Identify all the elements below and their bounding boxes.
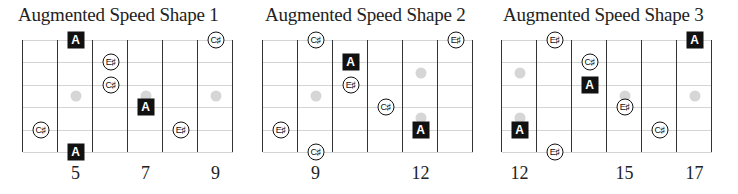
inlay-dot-icon <box>310 91 321 102</box>
fretboard: AC♯E♯C♯AC♯E♯A <box>23 40 233 152</box>
root-note-marker: A <box>342 54 359 71</box>
inlay-dot-icon <box>689 91 700 102</box>
inlay-dot-icon <box>70 91 81 102</box>
fret-number-label: 15 <box>616 163 634 184</box>
chord-tone-marker: C♯ <box>207 32 224 49</box>
root-note-marker: A <box>67 144 84 161</box>
chord-tone-marker: E♯ <box>102 54 119 71</box>
root-note-marker: A <box>581 76 598 93</box>
fret-number-label: 7 <box>141 163 150 184</box>
inlay-dot-icon <box>415 68 426 79</box>
fret-line <box>641 40 642 152</box>
chord-tone-marker: E♯ <box>272 121 289 138</box>
chord-tone-marker: E♯ <box>447 32 464 49</box>
chord-tone-marker: E♯ <box>546 144 563 161</box>
fret-line <box>22 40 23 152</box>
fret-number-label: 9 <box>311 163 320 184</box>
chord-tone-marker: E♯ <box>616 99 633 116</box>
diagram-title: Augmented Speed Shape 1 <box>18 4 219 26</box>
inlay-dot-icon <box>514 68 525 79</box>
chord-tone-marker: C♯ <box>581 54 598 71</box>
chord-tone-marker: C♯ <box>307 144 324 161</box>
fret-line <box>711 40 712 152</box>
fret-line <box>57 40 58 152</box>
fret-line <box>262 40 263 152</box>
fret-line <box>571 40 572 152</box>
chord-tone-marker: C♯ <box>377 99 394 116</box>
fret-number-label: 12 <box>412 163 430 184</box>
fret-line <box>536 40 537 152</box>
fret-line <box>162 40 163 152</box>
inlay-dot-icon <box>210 91 221 102</box>
fret-line <box>297 40 298 152</box>
chord-tone-marker: E♯ <box>172 121 189 138</box>
fret-line <box>437 40 438 152</box>
fret-line <box>402 40 403 152</box>
fret-line <box>332 40 333 152</box>
fret-line <box>367 40 368 152</box>
fret-number-label: 5 <box>71 163 80 184</box>
root-note-marker: A <box>67 32 84 49</box>
diagram-title: Augmented Speed Shape 2 <box>265 4 466 26</box>
string-line <box>23 152 233 153</box>
fret-line <box>472 40 473 152</box>
fret-number-label: 9 <box>211 163 220 184</box>
chord-tone-marker: E♯ <box>342 76 359 93</box>
fretboard: C♯E♯AE♯C♯E♯AC♯ <box>263 40 473 152</box>
fret-number-label: 12 <box>511 163 529 184</box>
root-note-marker: A <box>686 32 703 49</box>
chord-tone-marker: C♯ <box>651 121 668 138</box>
string-line <box>502 152 712 153</box>
chord-tone-marker: C♯ <box>102 76 119 93</box>
fret-number-label: 17 <box>686 163 704 184</box>
chord-tone-marker: E♯ <box>546 32 563 49</box>
fret-line <box>501 40 502 152</box>
fret-line <box>232 40 233 152</box>
diagram-title: Augmented Speed Shape 3 <box>503 4 704 26</box>
chord-tone-marker: C♯ <box>32 121 49 138</box>
fret-line <box>197 40 198 152</box>
chord-tone-marker: C♯ <box>307 32 324 49</box>
fret-line <box>127 40 128 152</box>
root-note-marker: A <box>137 99 154 116</box>
fret-line <box>92 40 93 152</box>
string-line <box>263 152 473 153</box>
fret-line <box>606 40 607 152</box>
fretboard: E♯AC♯AE♯AC♯E♯ <box>502 40 712 152</box>
fret-line <box>676 40 677 152</box>
root-note-marker: A <box>511 121 528 138</box>
root-note-marker: A <box>412 121 429 138</box>
